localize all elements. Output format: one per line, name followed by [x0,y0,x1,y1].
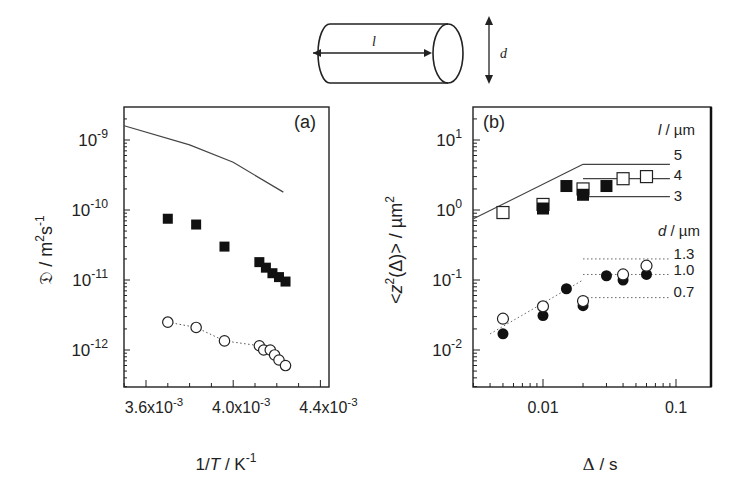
y-tick-label: 10-12 [71,337,108,360]
data-point-filled-square [537,203,549,215]
x-tick-label: 4.4x10-3 [299,396,357,416]
data-point-filled-circle [497,328,508,339]
y-tick-label: 10-2 [432,337,462,360]
y-tick-label: 10-10 [71,197,108,220]
data-point-open-square [617,173,629,185]
data-point-open-circle [497,313,508,324]
y-tick-label: 10-1 [432,267,462,290]
y-tick-label: 101 [436,127,462,150]
x-axis-label: Δ / s [583,454,618,474]
data-point-open-circle [280,360,290,370]
y-axis-label: <z2(Δ)> / µm2 [383,196,406,304]
x-tick-label: 4.0x10-3 [212,396,270,416]
y-axis-label: 𝔇 / m2s-1 [33,215,56,285]
legend-d-title: d / µm [658,222,700,239]
legend-l-value: 5 [674,146,682,163]
data-point-filled-square [191,220,201,230]
length-label: l [372,34,376,49]
theory-line [124,126,283,192]
figure: l d 10-910-1010-1110-123.6x10-34.0x10-34… [0,0,729,502]
data-point-filled-square [560,180,572,192]
panel-label: (a) [294,112,316,132]
data-point-open-circle [538,301,549,312]
legend-l-value: 3 [674,187,682,204]
data-point-open-circle [641,260,652,271]
diameter-label: d [500,46,508,61]
legend-l-title: l / µm [658,121,695,138]
data-point-open-circle [191,322,201,332]
data-point-open-circle [219,336,229,346]
x-tick-label: 0.1 [665,399,687,416]
cylinder-schematic [313,16,493,84]
data-point-filled-circle [561,283,572,294]
panel-b: 10110010-110-20.010.1Δ / s<z2(Δ)> / µm2(… [383,107,711,474]
y-tick-label: 100 [436,197,462,220]
data-point-filled-square [577,189,589,201]
x-axis-label: 1/T / K-1 [196,451,257,474]
data-point-filled-square [163,214,173,224]
data-point-open-square [497,207,509,219]
data-point-open-square [640,171,652,183]
data-point-filled-square [600,180,612,192]
data-point-filled-circle [601,270,612,281]
x-tick-label: 0.01 [527,399,558,416]
data-point-open-circle [618,269,629,280]
legend-d-value: 0.7 [674,283,695,300]
x-tick-label: 3.6x10-3 [125,396,183,416]
y-tick-label: 10-9 [78,127,108,150]
y-tick-label: 10-11 [72,267,108,290]
data-point-filled-square [281,277,291,287]
data-point-open-circle [163,317,173,327]
data-point-filled-square [219,242,229,252]
panel-a: 10-910-1010-1110-123.6x10-34.0x10-34.4x1… [33,107,358,474]
data-point-open-circle [578,296,589,307]
legend-l-value: 4 [674,166,682,183]
legend-d-value: 1.3 [674,245,695,262]
legend-d-value: 1.0 [674,261,695,278]
panel-label: (b) [483,112,505,132]
